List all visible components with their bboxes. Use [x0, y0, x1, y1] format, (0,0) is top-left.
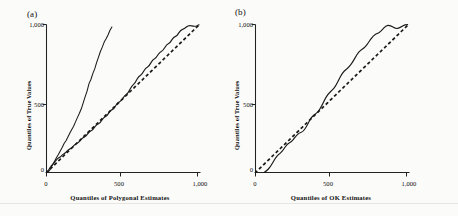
scan-artifact-line	[0, 203, 458, 204]
panel-b: (b) Quantiles of True Values 1,000 500 0…	[229, 0, 458, 216]
panel-a: (a) Quantiles of True Values 1,000 500 0…	[0, 0, 229, 216]
panel-a-plot-area	[0, 0, 229, 216]
panel-b-reference-line	[256, 25, 409, 173]
figure-qq-plots: (a) Quantiles of True Values 1,000 500 0…	[0, 0, 458, 216]
panel-b-plot-area	[229, 0, 458, 216]
panel-a-empirical-curve	[47, 27, 112, 173]
